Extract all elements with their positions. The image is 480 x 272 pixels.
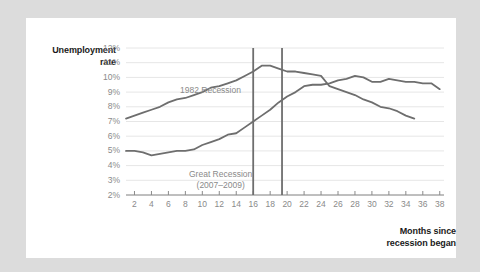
chart-page: Unemployment rate Months since recession… <box>0 0 480 272</box>
axis-ticks <box>134 191 439 195</box>
series-label-great-line2: (2007–2009) <box>189 180 252 191</box>
chart-card: Unemployment rate Months since recession… <box>26 18 456 258</box>
series-label-great-line1: Great Recession <box>189 169 252 180</box>
chart-plot-area <box>26 18 456 258</box>
series-label-great-recession: Great Recession (2007–2009) <box>189 169 252 190</box>
series-label-1982: 1982 Recession <box>180 85 241 96</box>
